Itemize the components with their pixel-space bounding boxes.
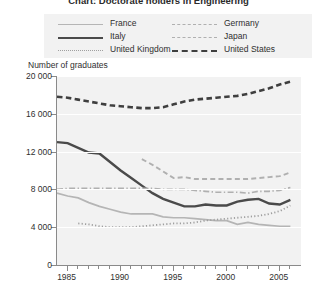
x-tick-mark-minor xyxy=(109,265,110,269)
x-tick-mark-major xyxy=(120,265,121,271)
y-tick-label: 0 xyxy=(4,260,52,270)
legend-item-united-states: United States xyxy=(172,43,275,56)
x-tick-mark-minor xyxy=(205,265,206,269)
x-tick-mark-minor xyxy=(77,265,78,269)
x-tick-mark-minor xyxy=(183,265,184,269)
legend-column-right: Germany Japan United States xyxy=(172,17,275,56)
x-tick-mark-major xyxy=(173,265,174,271)
series-line-germany xyxy=(142,159,291,179)
legend-swatch-united-states xyxy=(172,44,217,55)
gridline xyxy=(57,189,301,190)
legend-item-united-kingdom: United Kingdom xyxy=(58,43,170,56)
x-tick-mark-minor xyxy=(247,265,248,269)
legend-label-france: France xyxy=(110,18,136,29)
chart-legend: France Italy United Kingdom Germany Japa… xyxy=(44,14,312,58)
legend-swatch-japan xyxy=(172,31,217,42)
x-tick-mark-minor xyxy=(194,265,195,269)
legend-swatch-france xyxy=(58,18,103,29)
gridline xyxy=(57,76,301,77)
x-tick-label: 1995 xyxy=(163,272,182,282)
x-tick-mark-minor xyxy=(98,265,99,269)
x-tick-mark-minor xyxy=(141,265,142,269)
x-tick-mark-minor xyxy=(130,265,131,269)
x-tick-mark-major xyxy=(279,265,280,271)
x-tick-label: 2000 xyxy=(216,272,235,282)
x-axis-line xyxy=(56,265,301,266)
x-tick-label: 2005 xyxy=(269,272,288,282)
x-tick-mark-minor xyxy=(151,265,152,269)
x-tick-mark-minor xyxy=(268,265,269,269)
legend-item-germany: Germany xyxy=(172,17,275,30)
x-tick-mark-minor xyxy=(258,265,259,269)
legend-swatch-italy xyxy=(58,31,103,42)
x-tick-mark-minor xyxy=(162,265,163,269)
y-tick-label: 20 000 xyxy=(4,71,52,81)
legend-label-germany: Germany xyxy=(224,18,259,29)
y-tick-label: 4 000 xyxy=(4,222,52,232)
legend-item-france: France xyxy=(58,17,170,30)
x-tick-mark-major xyxy=(67,265,68,271)
legend-label-japan: Japan xyxy=(224,31,247,42)
series-line-united-states xyxy=(57,82,290,108)
chart-title-text: Chart: Doctorate holders in Engineering xyxy=(0,0,317,6)
legend-column-left: France Italy United Kingdom xyxy=(58,17,170,56)
legend-item-italy: Italy xyxy=(58,30,170,43)
legend-swatch-germany xyxy=(172,18,217,29)
series-layer xyxy=(57,76,301,265)
x-tick-label: 1990 xyxy=(110,272,129,282)
legend-label-united-kingdom: United Kingdom xyxy=(110,44,170,55)
gridline xyxy=(57,227,301,228)
chart-body: Number of graduates 04 0008 00012 00016 … xyxy=(0,60,317,302)
y-tick-label: 16 000 xyxy=(4,109,52,119)
chart-title-clipped: Chart: Doctorate holders in Engineering xyxy=(0,0,317,6)
x-tick-mark-minor xyxy=(88,265,89,269)
chart-figure: Chart: Doctorate holders in Engineering … xyxy=(0,0,317,302)
y-tick-label: 8 000 xyxy=(4,184,52,194)
x-tick-mark-minor xyxy=(215,265,216,269)
x-tick-mark-major xyxy=(226,265,227,271)
legend-label-italy: Italy xyxy=(110,31,126,42)
y-axis-title: Number of graduates xyxy=(28,60,108,70)
legend-swatch-united-kingdom xyxy=(58,44,103,55)
gridline xyxy=(57,114,301,115)
x-tick-mark-minor xyxy=(289,265,290,269)
y-tick-label: 12 000 xyxy=(4,147,52,157)
gridline xyxy=(57,152,301,153)
x-tick-mark-minor xyxy=(236,265,237,269)
plot-area xyxy=(56,76,301,265)
legend-item-japan: Japan xyxy=(172,30,275,43)
legend-label-united-states: United States xyxy=(224,44,275,55)
x-tick-label: 1985 xyxy=(57,272,76,282)
